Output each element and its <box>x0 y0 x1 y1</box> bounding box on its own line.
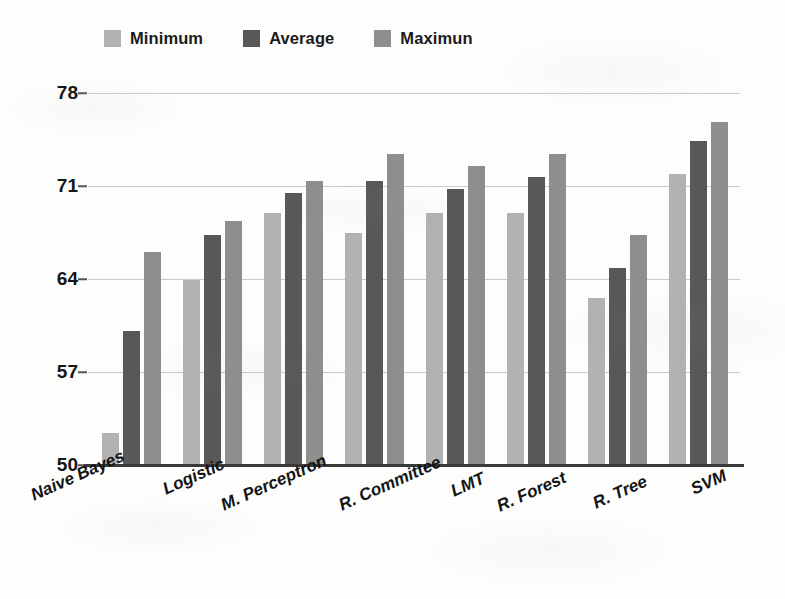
x-axis-label: R. Committee <box>336 452 444 515</box>
x-axis-label: M. Perceptron <box>218 451 330 515</box>
x-axis-label: R. Forest <box>494 468 569 516</box>
x-axis-label: R. Tree <box>590 472 651 514</box>
x-axis-label: SVM <box>688 466 730 499</box>
x-axis-label: Logistic <box>160 454 228 499</box>
x-axis-label: Naive Bayes <box>28 446 128 505</box>
x-axis-labels: Naive BayesLogisticM. PerceptronR. Commi… <box>0 0 785 599</box>
x-axis-label: LMT <box>448 469 488 501</box>
bar-chart: Minimum Average Maximun 5057647178 Naive… <box>0 0 785 599</box>
